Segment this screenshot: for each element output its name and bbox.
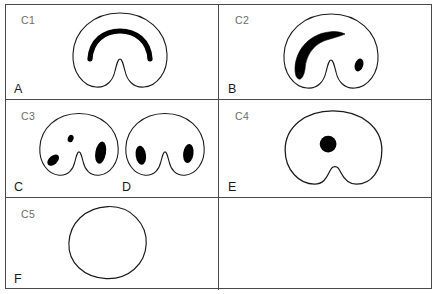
dot-icon xyxy=(320,136,337,153)
spot-icon xyxy=(93,141,107,165)
panel-c-d: C3 C D xyxy=(5,100,218,197)
panel-e: C4 E xyxy=(219,100,432,197)
spot-icon xyxy=(182,143,195,163)
panel-a: C1 A xyxy=(5,4,218,99)
panel-b: C2 B xyxy=(219,4,432,99)
panel-e-drawing xyxy=(219,100,432,197)
plain-circle-outline-icon xyxy=(63,203,153,283)
kidney-outline-icon xyxy=(115,106,215,186)
spot-icon xyxy=(67,134,75,143)
panel-a-drawing xyxy=(5,4,218,99)
spot-icon xyxy=(353,57,365,72)
kidney-outline-icon xyxy=(271,10,391,96)
panel-f: C5 F xyxy=(5,198,218,289)
panel-b-drawing xyxy=(219,4,432,99)
spot-icon xyxy=(134,145,147,165)
spot-icon xyxy=(45,152,61,168)
rounded-kidney-outline-icon xyxy=(274,107,392,191)
panel-empty xyxy=(219,198,432,289)
kidney-outline-icon xyxy=(29,106,129,186)
figure-panel-grid: C1 A C2 B C3 C D xyxy=(0,0,437,294)
panel-f-drawing xyxy=(5,198,218,289)
panel-c-drawing xyxy=(5,100,218,197)
kidney-outline-icon xyxy=(60,9,180,95)
